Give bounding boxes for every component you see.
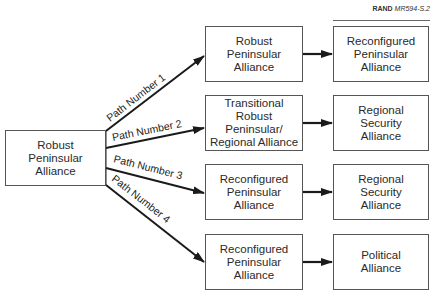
path-4-intermediate-node: Reconfigured Peninsular Alliance bbox=[205, 234, 303, 290]
path-4-outcome-node: Political Alliance bbox=[333, 234, 429, 290]
node-label: Transitional Robust Peninsular/ Regional… bbox=[210, 97, 298, 149]
path-2-intermediate-node: Transitional Robust Peninsular/ Regional… bbox=[205, 95, 303, 151]
node-label: Regional Security Alliance bbox=[358, 104, 403, 143]
node-label: Reconfigured Peninsular Alliance bbox=[220, 243, 288, 282]
path-1-label: Path Number 1 bbox=[104, 71, 167, 124]
path-1-outcome-node: Reconfigured Peninsular Alliance bbox=[333, 26, 429, 82]
path-1-arrow bbox=[106, 56, 204, 131]
node-label: Regional Security Alliance bbox=[358, 173, 403, 212]
node-label: Robust Peninsular Alliance bbox=[227, 35, 281, 74]
node-label: Reconfigured Peninsular Alliance bbox=[220, 173, 288, 212]
path-1-intermediate-node: Robust Peninsular Alliance bbox=[205, 26, 303, 82]
node-label: Reconfigured Peninsular Alliance bbox=[347, 35, 415, 74]
path-4-arrow bbox=[106, 185, 204, 262]
source-node: Robust Peninsular Alliance bbox=[5, 130, 106, 186]
node-label: Political Alliance bbox=[361, 249, 401, 275]
path-2-outcome-node: Regional Security Alliance bbox=[333, 95, 429, 151]
source-node-label: Robust Peninsular Alliance bbox=[28, 139, 82, 178]
path-3-intermediate-node: Reconfigured Peninsular Alliance bbox=[205, 164, 303, 220]
path-3-outcome-node: Regional Security Alliance bbox=[333, 164, 429, 220]
path-4-label: Path Number 4 bbox=[110, 172, 173, 225]
